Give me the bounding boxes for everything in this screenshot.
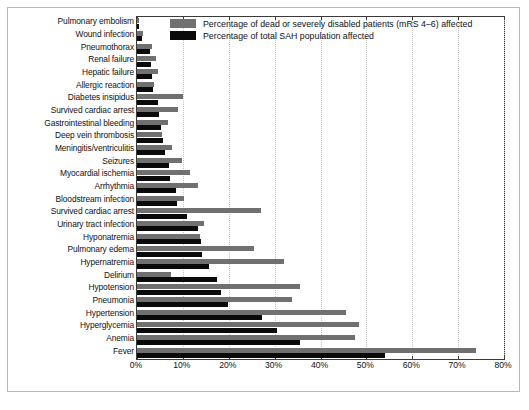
bar-dead-disabled (137, 44, 152, 49)
bar-dead-disabled (137, 170, 190, 175)
category-label: Survived cardiac arrest (8, 106, 134, 115)
bar-dead-disabled (137, 18, 139, 23)
bar-dead-disabled (137, 259, 284, 264)
x-tick-label: 10% (173, 360, 190, 370)
plot-area (136, 16, 505, 360)
bar-dead-disabled (137, 284, 300, 289)
legend-label-dead-disabled: Percentage of dead or severely disabled … (203, 19, 472, 29)
bar-total-sah (137, 214, 187, 219)
x-tick-label: 70% (449, 360, 466, 370)
bar-dead-disabled (137, 82, 154, 87)
bar-dead-disabled (137, 348, 476, 353)
bar-total-sah (137, 163, 169, 168)
chart-legend: Percentage of dead or severely disabled … (170, 18, 472, 42)
bar-total-sah (137, 328, 277, 333)
category-label: Bloodstream infection (8, 195, 134, 204)
gridline (321, 17, 323, 359)
bar-dead-disabled (137, 107, 178, 112)
category-label: Wound infection (8, 30, 134, 39)
category-label: Delirium (8, 271, 134, 280)
bar-dead-disabled (137, 208, 261, 213)
gridline (412, 17, 414, 359)
category-label: Fever (8, 347, 134, 356)
category-label: Hypotension (8, 283, 134, 292)
bar-dead-disabled (137, 234, 200, 239)
category-label: Pneumothorax (8, 43, 134, 52)
legend-label-total-sah: Percentage of total SAH population affec… (203, 31, 374, 41)
category-axis-labels: Pulmonary embolismWound infectionPneumot… (8, 16, 134, 358)
bar-total-sah (137, 138, 163, 143)
category-label: Deep vein thrombosis (8, 131, 134, 140)
bar-dead-disabled (137, 132, 162, 137)
bar-dead-disabled (137, 183, 198, 188)
bar-dead-disabled (137, 94, 183, 99)
category-label: Hypertension (8, 309, 134, 318)
bar-total-sah (137, 201, 177, 206)
bar-total-sah (137, 315, 262, 320)
category-label: Meningitis/ventriculitis (8, 144, 134, 153)
legend-swatch-gray (170, 19, 196, 28)
x-tick-label: 60% (403, 360, 420, 370)
bar-dead-disabled (137, 120, 168, 125)
bar-total-sah (137, 302, 228, 307)
bar-total-sah (137, 36, 142, 41)
category-label: Gastrointestinal bleeding (8, 119, 134, 128)
x-tick-label: 80% (494, 360, 511, 370)
bar-total-sah (137, 74, 152, 79)
bar-dead-disabled (137, 297, 292, 302)
legend-item-total-sah: Percentage of total SAH population affec… (170, 30, 472, 41)
legend-swatch-dark (170, 31, 196, 40)
gridline (504, 17, 506, 359)
chart-figure: Pulmonary embolismWound infectionPneumot… (0, 0, 529, 410)
category-label: Hypernatremia (8, 258, 134, 267)
category-label: Arrhythmia (8, 182, 134, 191)
category-label: Pulmonary embolism (8, 17, 134, 26)
x-axis-tick-labels: 0%10%20%30%40%50%60%70%80% (136, 360, 504, 374)
bar-dead-disabled (137, 145, 172, 150)
bar-dead-disabled (137, 158, 182, 163)
gridline (229, 17, 231, 359)
category-label: Seizures (8, 157, 134, 166)
bar-dead-disabled (137, 322, 359, 327)
x-tick-label: 40% (311, 360, 328, 370)
x-tick-label: 0% (130, 360, 142, 370)
bar-total-sah (137, 112, 159, 117)
bar-dead-disabled (137, 246, 254, 251)
category-label: Hepatic failure (8, 68, 134, 77)
legend-item-dead-disabled: Percentage of dead or severely disabled … (170, 18, 472, 29)
category-label: Renal failure (8, 55, 134, 64)
bar-total-sah (137, 353, 385, 358)
x-tick-label: 30% (265, 360, 282, 370)
bar-dead-disabled (137, 31, 143, 36)
category-label: Hyperglycemia (8, 321, 134, 330)
category-label: Survived cardiac arrest (8, 207, 134, 216)
category-label: Myocardial ischemia (8, 169, 134, 178)
bar-total-sah (137, 340, 300, 345)
bar-dead-disabled (137, 310, 346, 315)
bar-dead-disabled (137, 272, 171, 277)
axis-tick (504, 16, 505, 20)
bar-total-sah (137, 24, 139, 29)
gridline (275, 17, 277, 359)
category-label: Anemia (8, 334, 134, 343)
category-label: Diabetes insipidus (8, 93, 134, 102)
category-label: Allergic reaction (8, 81, 134, 90)
bar-total-sah (137, 277, 217, 282)
bar-total-sah (137, 49, 150, 54)
category-label: Pneumonia (8, 296, 134, 305)
bar-dead-disabled (137, 56, 156, 61)
bar-total-sah (137, 264, 209, 269)
bar-total-sah (137, 150, 165, 155)
bar-total-sah (137, 252, 202, 257)
bar-total-sah (137, 62, 151, 67)
bar-total-sah (137, 100, 158, 105)
category-label: Hyponatremia (8, 233, 134, 242)
gridline (458, 17, 460, 359)
x-tick-label: 20% (219, 360, 236, 370)
bar-dead-disabled (137, 221, 204, 226)
category-label: Pulmonary edema (8, 245, 134, 254)
bar-total-sah (137, 125, 161, 130)
bar-total-sah (137, 226, 198, 231)
bar-total-sah (137, 176, 170, 181)
bar-total-sah (137, 87, 153, 92)
